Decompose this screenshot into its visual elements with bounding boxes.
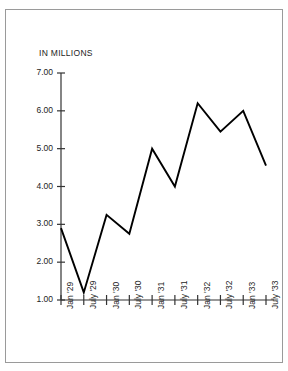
y-axis-tick-label: 6.00 [19, 105, 53, 115]
y-axis-tick-label: 5.00 [19, 143, 53, 153]
y-axis-tick-label: 4.00 [19, 181, 53, 191]
x-axis-tick-label: Jan '32 [202, 282, 212, 309]
line-chart: 7.006.005.004.003.002.001.00Jan '29July … [0, 0, 288, 371]
x-axis-tick-label: July '30 [133, 280, 143, 309]
x-axis-tick-label: July '29 [88, 280, 98, 309]
x-axis-tick-label: July '33 [270, 280, 280, 309]
data-series-line [61, 103, 266, 292]
x-axis-tick-label: Jan '30 [111, 282, 121, 309]
x-axis-tick-label: July '31 [179, 280, 189, 309]
x-axis-tick-label: Jan '31 [156, 282, 166, 309]
y-axis-tick-label: 1.00 [19, 294, 53, 304]
x-axis-tick-label: Jan '29 [65, 282, 75, 309]
y-axis-tick-label: 3.00 [19, 218, 53, 228]
x-axis-tick-label: Jan '33 [247, 282, 257, 309]
x-axis-tick-label: July '32 [224, 280, 234, 309]
y-axis-tick-label: 2.00 [19, 256, 53, 266]
y-axis-tick-label: 7.00 [19, 67, 53, 77]
